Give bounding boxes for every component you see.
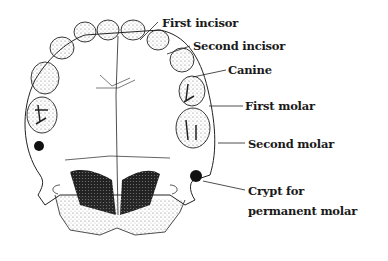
tooth	[31, 62, 59, 94]
label-crypt-line2: permanent molar	[248, 205, 357, 218]
tooth	[121, 20, 145, 40]
label-second-molar: Second molar	[248, 138, 334, 151]
label-first-incisor: First incisor	[162, 17, 238, 30]
label-second-incisor: Second incisor	[193, 40, 285, 53]
tooth	[27, 97, 57, 133]
tooth	[176, 108, 210, 148]
label-crypt-line1: Crypt for	[248, 185, 304, 198]
crypt-right	[190, 170, 202, 182]
label-canine: Canine	[228, 64, 272, 77]
tooth	[147, 30, 169, 50]
tooth	[179, 76, 205, 106]
tooth	[97, 20, 119, 40]
leader-crypt	[203, 181, 245, 190]
crypt-left	[34, 141, 44, 151]
tooth	[50, 37, 74, 59]
label-first-molar: First molar	[245, 100, 315, 113]
tooth	[74, 22, 96, 42]
